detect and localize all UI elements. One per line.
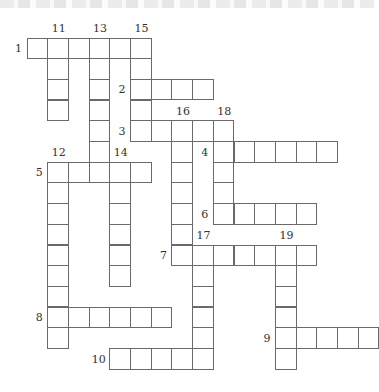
grid-cell[interactable] [47, 162, 69, 184]
grid-cell[interactable] [296, 203, 318, 225]
grid-cell[interactable] [296, 141, 318, 163]
grid-cell[interactable] [130, 100, 152, 122]
grid-cell[interactable] [275, 348, 297, 370]
grid-cell[interactable] [130, 348, 152, 370]
grid-cell[interactable] [109, 245, 131, 267]
grid-cell[interactable] [89, 141, 111, 163]
grid-cell[interactable] [109, 265, 131, 287]
grid-cell[interactable] [130, 58, 152, 80]
clue-number-down-19: 19 [279, 230, 293, 241]
grid-cell[interactable] [296, 245, 318, 267]
grid-cell[interactable] [192, 348, 214, 370]
grid-cell[interactable] [275, 141, 297, 163]
grid-cell[interactable] [89, 162, 111, 184]
clue-number-across-10: 10 [92, 354, 106, 365]
grid-cell[interactable] [47, 38, 69, 60]
grid-cell[interactable] [171, 245, 193, 267]
grid-cell[interactable] [89, 79, 111, 101]
grid-cell[interactable] [192, 265, 214, 287]
grid-cell[interactable] [275, 327, 297, 349]
grid-cell[interactable] [47, 58, 69, 80]
grid-cell[interactable] [171, 348, 193, 370]
grid-cell[interactable] [68, 38, 90, 60]
grid-cell[interactable] [151, 79, 173, 101]
grid-cell[interactable] [171, 203, 193, 225]
grid-cell[interactable] [192, 286, 214, 308]
grid-cell[interactable] [130, 79, 152, 101]
grid-cell[interactable] [47, 327, 69, 349]
grid-cell[interactable] [47, 79, 69, 101]
grid-cell[interactable] [89, 38, 111, 60]
grid-cell[interactable] [337, 327, 359, 349]
grid-cell[interactable] [192, 307, 214, 329]
grid-cell[interactable] [213, 141, 235, 163]
grid-cell[interactable] [213, 245, 235, 267]
clue-number-down-17: 17 [197, 230, 211, 241]
grid-cell[interactable] [130, 307, 152, 329]
grid-cell[interactable] [275, 245, 297, 267]
grid-cell[interactable] [234, 203, 256, 225]
grid-cell[interactable] [47, 286, 69, 308]
grid-cell[interactable] [89, 120, 111, 142]
grid-cell[interactable] [27, 38, 49, 60]
grid-cell[interactable] [171, 120, 193, 142]
grid-cell[interactable] [254, 245, 276, 267]
grid-cell[interactable] [68, 162, 90, 184]
grid-cell[interactable] [109, 224, 131, 246]
grid-cell[interactable] [275, 265, 297, 287]
grid-cell[interactable] [89, 58, 111, 80]
grid-cell[interactable] [68, 307, 90, 329]
grid-cell[interactable] [47, 307, 69, 329]
grid-cell[interactable] [296, 327, 318, 349]
grid-cell[interactable] [109, 162, 131, 184]
grid-cell[interactable] [47, 245, 69, 267]
clue-number-across-2: 2 [119, 84, 126, 95]
grid-cell[interactable] [171, 182, 193, 204]
grid-cell[interactable] [358, 327, 379, 349]
grid-cell[interactable] [130, 38, 152, 60]
grid-cell[interactable] [275, 307, 297, 329]
grid-cell[interactable] [47, 224, 69, 246]
grid-cell[interactable] [234, 245, 256, 267]
clue-number-across-7: 7 [160, 250, 167, 261]
grid-cell[interactable] [47, 203, 69, 225]
grid-cell[interactable] [151, 120, 173, 142]
grid-cell[interactable] [275, 286, 297, 308]
grid-cell[interactable] [171, 79, 193, 101]
grid-cell[interactable] [171, 162, 193, 184]
grid-cell[interactable] [109, 203, 131, 225]
clue-number-down-12: 12 [52, 147, 66, 158]
grid-cell[interactable] [213, 203, 235, 225]
grid-cell[interactable] [316, 141, 338, 163]
grid-cell[interactable] [234, 141, 256, 163]
grid-cell[interactable] [192, 327, 214, 349]
grid-cell[interactable] [213, 182, 235, 204]
grid-cell[interactable] [89, 307, 111, 329]
grid-cell[interactable] [47, 265, 69, 287]
grid-cell[interactable] [109, 348, 131, 370]
grid-cell[interactable] [47, 182, 69, 204]
clue-number-down-14: 14 [114, 147, 128, 158]
grid-cell[interactable] [316, 327, 338, 349]
grid-cell[interactable] [130, 120, 152, 142]
grid-cell[interactable] [109, 38, 131, 60]
grid-cell[interactable] [192, 245, 214, 267]
grid-cell[interactable] [130, 162, 152, 184]
grid-cell[interactable] [151, 307, 173, 329]
grid-cell[interactable] [171, 141, 193, 163]
clue-number-down-18: 18 [217, 106, 231, 117]
grid-cell[interactable] [89, 100, 111, 122]
grid-cell[interactable] [47, 100, 69, 122]
grid-cell[interactable] [109, 307, 131, 329]
grid-cell[interactable] [213, 120, 235, 142]
grid-cell[interactable] [151, 348, 173, 370]
clue-number-across-4: 4 [201, 147, 208, 158]
grid-cell[interactable] [109, 182, 131, 204]
grid-cell[interactable] [192, 120, 214, 142]
grid-cell[interactable] [254, 203, 276, 225]
grid-cell[interactable] [171, 224, 193, 246]
grid-cell[interactable] [275, 203, 297, 225]
grid-cell[interactable] [213, 162, 235, 184]
grid-cell[interactable] [192, 79, 214, 101]
grid-cell[interactable] [254, 141, 276, 163]
